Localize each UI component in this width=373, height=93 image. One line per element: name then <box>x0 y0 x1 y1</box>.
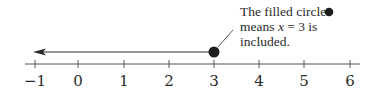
tick-label: 1 <box>119 72 129 90</box>
annotation-line-2: means x = 3 is <box>240 19 317 34</box>
annotation-line-2-prefix: means <box>240 19 278 34</box>
annotation-line-1: The filled circle <box>240 4 326 19</box>
annotation-line-3: included. <box>240 34 290 49</box>
tick-label: 6 <box>345 72 355 90</box>
tick-label: 0 <box>73 72 83 90</box>
tick-label: 2 <box>164 72 174 90</box>
number-line-diagram: −10123456 The filled circle means x = 3 … <box>0 0 373 93</box>
annotation-line-2-suffix: = 3 is <box>284 19 318 34</box>
filled-circle-icon <box>325 8 334 17</box>
annotation-leader-line <box>218 30 233 47</box>
tick-label: 3 <box>209 72 219 90</box>
tick-label: −1 <box>24 72 46 90</box>
annotation-variable: x <box>277 19 284 34</box>
tick-label: 5 <box>299 72 309 90</box>
filled-circle-endpoint <box>209 47 220 58</box>
tick-label: 4 <box>254 72 264 90</box>
